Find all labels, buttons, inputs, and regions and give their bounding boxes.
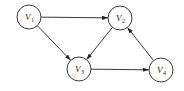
node-v4: V4	[149, 58, 173, 82]
nodes-group: V1V2V3V4	[17, 5, 173, 82]
node-label-subscript: 2	[122, 18, 125, 24]
node-label-subscript: 3	[81, 69, 84, 75]
edge-v2-to-v3	[87, 27, 113, 59]
node-v2: V2	[108, 6, 132, 30]
edge-v3-to-v4	[91, 69, 149, 70]
node-label-subscript: 4	[163, 70, 166, 76]
graph-canvas: V1V2V3V4	[0, 0, 184, 91]
edges-group	[37, 17, 153, 70]
edge-v1-to-v2	[41, 17, 108, 18]
node-v3: V3	[67, 57, 91, 81]
node-v1: V1	[17, 5, 41, 29]
node-label-subscript: 1	[31, 17, 34, 23]
edge-v4-to-v2	[127, 27, 153, 60]
edge-v1-to-v3	[37, 26, 70, 61]
directed-graph-diagram: V1V2V3V4	[0, 0, 184, 91]
